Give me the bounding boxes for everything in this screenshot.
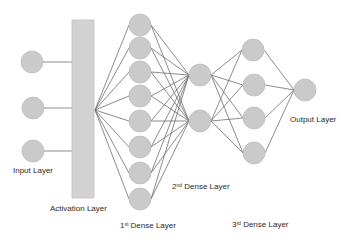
connection-edge — [95, 110, 129, 199]
dense3-label-text: Dense Layer — [241, 220, 289, 229]
dense1-node — [129, 61, 151, 83]
dense3-layer-label: 3rd Dense Layer — [232, 220, 289, 230]
dense1-label-text: Dense Layer — [128, 221, 176, 230]
connection-edge — [211, 121, 243, 153]
dense2-node — [189, 110, 211, 132]
output-layer-label: Output Layer — [290, 115, 336, 125]
input-node — [21, 51, 43, 73]
connection-edge — [211, 75, 243, 153]
connection-edge — [151, 48, 189, 121]
dense3-node — [243, 74, 265, 96]
dense3-node — [243, 142, 265, 164]
connection-edge — [151, 121, 189, 173]
input-node — [22, 97, 44, 119]
dense1-node — [129, 14, 151, 36]
dense1-node — [129, 136, 151, 158]
dense2-layer-label: 2nd Dense Layer — [172, 182, 230, 192]
dense1-node — [129, 162, 151, 184]
dense3-node — [242, 39, 264, 61]
activation-layer-block — [72, 20, 94, 198]
connection-edge — [211, 85, 243, 121]
connection-edge — [211, 118, 243, 121]
connection-edge — [151, 96, 189, 121]
connection-edge — [265, 85, 294, 90]
connection-edge — [151, 25, 189, 121]
dense1-node — [129, 37, 151, 59]
connection-edge — [151, 48, 189, 75]
input-node — [22, 140, 44, 162]
dense1-layer-label: 1st Dense Layer — [120, 221, 176, 231]
connection-edge — [151, 25, 189, 75]
dense1-node — [129, 188, 151, 210]
connection-edge — [95, 48, 129, 110]
connection-edge — [211, 75, 243, 118]
dense1-node — [129, 85, 151, 107]
activation-layer-label: Activation Layer — [50, 204, 107, 214]
connection-edge — [265, 90, 294, 118]
connection-edge — [151, 75, 189, 173]
connection-edge — [95, 72, 129, 110]
dense2-node — [189, 64, 211, 86]
connection-edge — [95, 25, 129, 110]
dense2-label-text: Dense Layer — [182, 182, 230, 191]
output-node — [294, 79, 316, 101]
connection-edge — [264, 50, 294, 90]
dense3-node — [243, 107, 265, 129]
dense1-node — [129, 110, 151, 132]
connection-edge — [211, 50, 242, 75]
input-layer-label: Input Layer — [13, 166, 53, 176]
